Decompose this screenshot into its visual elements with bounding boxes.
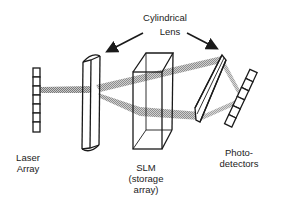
cylindrical-lens-label-line2: Lens (130, 26, 200, 37)
cylindrical-lens-label: Cylindrical Lens (130, 12, 200, 37)
slm-label: SLM (storage array) (118, 162, 174, 195)
photodetectors-label: Photo- detectors (208, 147, 270, 169)
laser-array-label-line1: Laser (6, 152, 50, 163)
slm-label-line3: array) (118, 184, 174, 195)
beam-lower (98, 93, 200, 120)
photodetectors-label-line1: Photo- (208, 147, 270, 158)
slm-storage-array-icon (133, 53, 173, 149)
cylindrical-lens-label-line1: Cylindrical (130, 12, 200, 23)
cylindrical-lens-left-icon (82, 55, 100, 151)
laser-array-label-line2: Array (6, 163, 50, 174)
laser-array-icon (33, 68, 40, 132)
laser-array-label: Laser Array (6, 152, 50, 174)
slm-label-line2: (storage (118, 173, 174, 184)
photodetectors-label-line2: detectors (208, 158, 270, 169)
slm-label-line1: SLM (118, 162, 174, 173)
